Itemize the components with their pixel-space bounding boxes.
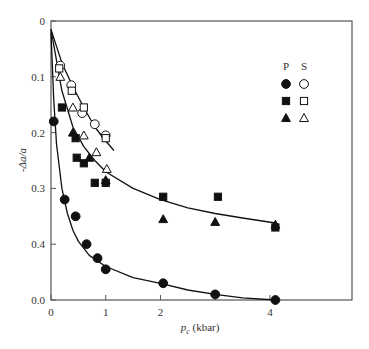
filled-circle-marker (211, 290, 220, 299)
open-triangle-marker (56, 72, 65, 80)
open-square-marker (56, 65, 63, 72)
x-tick-label: 2 (158, 306, 164, 318)
y-tick-label: 0.2 (31, 127, 45, 139)
filled-square-marker (160, 193, 167, 200)
open-square-marker (80, 104, 87, 111)
open-circle-marker (90, 120, 99, 129)
filled-circle-marker (101, 265, 110, 274)
x-tick-label: 0 (48, 306, 54, 318)
filled-circle-marker (159, 279, 168, 288)
filled-circle-marker (71, 212, 80, 221)
data-points (49, 61, 279, 304)
filled-circle-marker (49, 117, 58, 126)
x-tick-label: 4 (267, 306, 273, 318)
filled-triangle-marker (159, 215, 168, 223)
open-triangle-marker (102, 164, 111, 172)
open-triangle-marker (79, 131, 88, 139)
filled-circle-marker (82, 240, 91, 249)
y-tick-label: 0.0 (31, 294, 45, 306)
x-axis: 0124 (48, 295, 273, 318)
filled-square-marker (91, 179, 98, 186)
chart: 00.10.20.30.40.0 0124 PS -Δa/a pc (kbar) (0, 0, 369, 349)
y-tick-label: 0.1 (31, 71, 45, 83)
filled-square-marker (282, 97, 289, 104)
legend-header: S (301, 60, 307, 72)
filled-circle-marker (282, 80, 291, 89)
filled-square-marker (214, 193, 221, 200)
filled-square-marker (73, 154, 80, 161)
x-tick-label: 1 (103, 306, 109, 318)
y-axis-label: -Δa/a (16, 147, 28, 172)
open-square-marker (68, 87, 75, 94)
open-square-marker (102, 135, 109, 142)
y-tick-label: 0.4 (31, 238, 45, 250)
x-axis-label: pc (kbar) (180, 321, 220, 336)
open-triangle-marker (92, 148, 101, 156)
filled-square-marker (58, 104, 65, 111)
open-square-marker (300, 97, 307, 104)
open-triangle-marker (68, 103, 77, 111)
filled-triangle-marker (211, 217, 220, 225)
open-circle-marker (300, 80, 309, 89)
filled-circle-marker (60, 195, 69, 204)
filled-circle-marker (93, 254, 102, 263)
legend: PS (282, 60, 309, 122)
y-tick-label: 0 (40, 15, 46, 27)
filled-triangle-marker (282, 114, 291, 122)
filled-circle-marker (271, 296, 280, 305)
y-tick-label: 0.3 (31, 182, 45, 194)
open-triangle-marker (300, 114, 309, 122)
legend-header: P (283, 60, 289, 72)
